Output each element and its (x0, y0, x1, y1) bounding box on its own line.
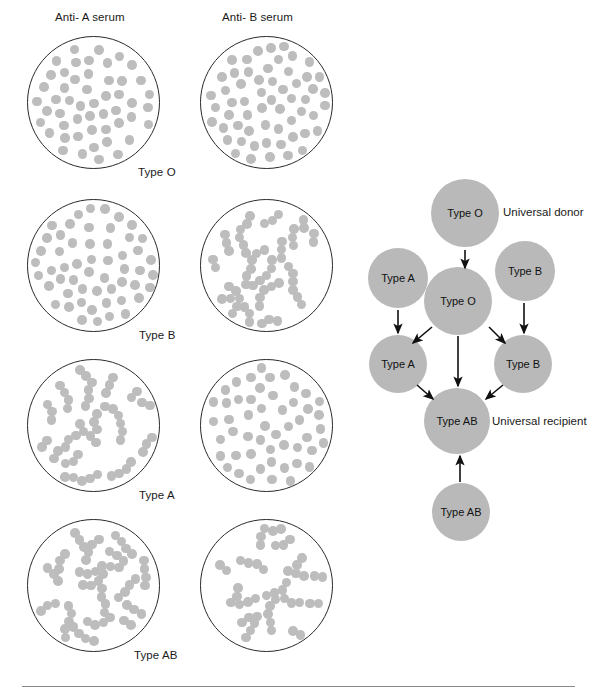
red-blood-cell (288, 51, 298, 61)
red-blood-cell (42, 106, 52, 116)
red-blood-cell (246, 475, 256, 485)
red-blood-cell (60, 83, 70, 93)
red-blood-cell (240, 97, 250, 107)
red-blood-cell (58, 146, 68, 156)
red-blood-cell (283, 151, 293, 161)
red-blood-cell (240, 302, 250, 312)
red-blood-cell (261, 120, 271, 130)
red-blood-cell (63, 404, 73, 414)
red-blood-cell (267, 626, 277, 636)
red-blood-cell (227, 55, 237, 65)
blood-type-node-donor-o: Type O (431, 179, 499, 247)
red-blood-cell (319, 438, 329, 448)
red-blood-cell (244, 410, 254, 420)
red-blood-cell (82, 85, 92, 95)
petri-dish-type-b-anti-a (27, 199, 160, 332)
red-blood-cell (101, 91, 111, 101)
red-blood-cell (77, 298, 87, 308)
red-blood-cell (44, 281, 54, 291)
red-blood-cell (98, 569, 108, 579)
red-blood-cell (268, 391, 278, 401)
red-blood-cell (279, 440, 289, 450)
red-blood-cell (79, 542, 89, 552)
red-blood-cell (89, 143, 99, 153)
red-blood-cell (114, 563, 124, 573)
red-blood-cell (232, 377, 242, 387)
annotation-universal-donor: Universal donor (503, 206, 584, 218)
red-blood-cell (256, 464, 266, 474)
red-blood-cell (45, 128, 55, 138)
red-blood-cell (85, 239, 95, 249)
red-blood-cell (299, 571, 309, 581)
red-blood-cell (125, 233, 135, 243)
red-blood-cell (137, 609, 147, 619)
red-blood-cell (222, 238, 232, 248)
red-blood-cell (92, 425, 102, 435)
red-blood-cell (72, 259, 82, 269)
red-blood-cell (60, 133, 70, 143)
red-blood-cell (81, 371, 91, 381)
dish-row-caption-type-o: Type O (138, 166, 176, 178)
blood-type-node-label: Type AB (437, 415, 478, 427)
red-blood-cell (114, 212, 124, 222)
red-blood-cell (242, 55, 252, 65)
red-blood-cell (267, 457, 277, 467)
red-blood-cell (279, 42, 289, 52)
red-blood-cell (262, 138, 272, 148)
red-blood-cell (103, 58, 113, 68)
column-header-anti-b-serum: Anti- B serum (222, 11, 293, 23)
blood-type-node-recipient-a: Type A (369, 335, 427, 393)
red-blood-cell (107, 471, 117, 481)
red-blood-cell (73, 132, 83, 142)
red-blood-cell (255, 383, 265, 393)
red-blood-cell (211, 263, 221, 273)
red-blood-cell (246, 154, 256, 164)
red-blood-cell (138, 234, 148, 244)
red-blood-cell (244, 67, 254, 77)
red-blood-cell (100, 273, 110, 283)
red-blood-cell (275, 104, 285, 114)
red-blood-cell (146, 255, 156, 265)
red-blood-cell (265, 152, 275, 162)
red-blood-cell (127, 98, 137, 108)
red-blood-cell (102, 137, 112, 147)
red-blood-cell (297, 300, 307, 310)
red-blood-cell (69, 622, 79, 632)
red-blood-cell (211, 103, 221, 113)
red-blood-cell (231, 149, 241, 159)
red-blood-cell (267, 475, 277, 485)
red-blood-cell (76, 101, 86, 111)
red-blood-cell (73, 114, 83, 124)
red-blood-cell (295, 415, 305, 425)
red-blood-cell (51, 95, 61, 105)
blood-type-node-label: Type AB (441, 506, 482, 518)
red-blood-cell (257, 103, 267, 113)
red-blood-cell (64, 302, 74, 312)
red-blood-cell (145, 90, 155, 100)
red-blood-cell (144, 120, 154, 130)
red-blood-cell (219, 123, 229, 133)
red-blood-cell (252, 559, 262, 569)
red-blood-cell (246, 395, 256, 405)
red-blood-cell (279, 540, 289, 550)
red-blood-cell (136, 76, 146, 86)
red-blood-cell (47, 266, 57, 276)
blood-type-node-label: Type B (506, 358, 540, 370)
red-blood-cell (224, 110, 234, 120)
red-blood-cell (127, 112, 137, 122)
red-blood-cell (320, 88, 330, 98)
red-blood-cell (276, 140, 286, 150)
red-blood-cell (245, 317, 255, 327)
red-blood-cell (292, 459, 302, 469)
red-blood-cell (133, 246, 143, 256)
red-blood-cell (292, 560, 302, 570)
red-blood-cell (241, 280, 251, 290)
red-blood-cell (266, 445, 276, 455)
red-blood-cell (221, 385, 231, 395)
blood-type-node-donor-ab: Type AB (432, 483, 490, 541)
red-blood-cell (100, 402, 110, 412)
red-blood-cell (263, 64, 273, 74)
red-blood-cell (274, 210, 284, 220)
red-blood-cell (263, 609, 273, 619)
red-blood-cell (255, 301, 265, 311)
